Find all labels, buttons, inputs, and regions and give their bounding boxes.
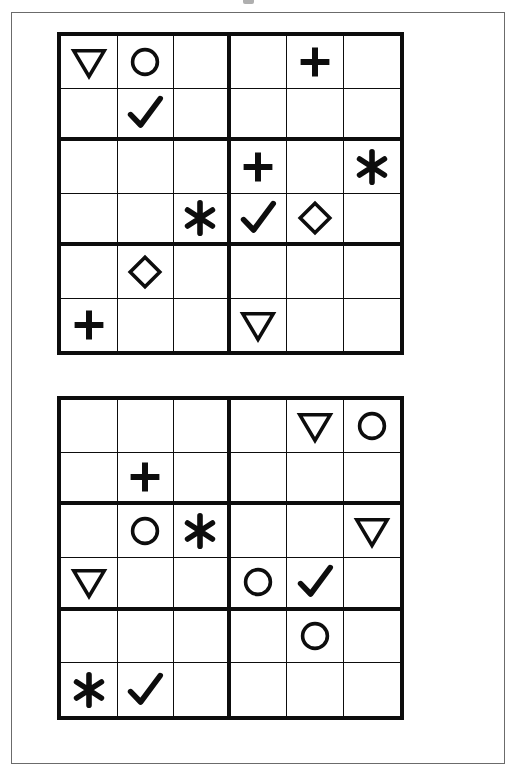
grid-cell[interactable]	[287, 505, 344, 558]
grid-cell[interactable]	[287, 89, 344, 142]
grid-cell[interactable]	[174, 194, 231, 247]
grid-cell[interactable]	[174, 558, 231, 611]
grid-cell[interactable]	[61, 400, 118, 453]
plus-icon	[61, 299, 117, 352]
grid-cell[interactable]	[61, 36, 118, 89]
grid-cell[interactable]	[231, 89, 288, 142]
triangle-down-icon	[344, 505, 401, 557]
grid-cell[interactable]	[344, 141, 401, 194]
grid-cell[interactable]	[287, 400, 344, 453]
grid-cell[interactable]	[174, 89, 231, 142]
grid-cell[interactable]	[231, 141, 288, 194]
grid-cell[interactable]	[344, 663, 401, 716]
puzzle-grid-2[interactable]	[57, 396, 404, 720]
grid-cell[interactable]	[231, 505, 288, 558]
empty-cell-marker	[231, 611, 287, 663]
grid-cell[interactable]	[118, 611, 175, 664]
grid-cell[interactable]	[174, 611, 231, 664]
empty-cell-marker	[61, 400, 117, 452]
empty-cell-marker	[174, 89, 227, 138]
grid-cell[interactable]	[231, 36, 288, 89]
grid-cell[interactable]	[287, 453, 344, 506]
grid-cell[interactable]	[118, 453, 175, 506]
empty-cell-marker	[287, 453, 343, 502]
empty-cell-marker	[174, 246, 227, 298]
grid-cell[interactable]	[287, 141, 344, 194]
grid-cell[interactable]	[231, 453, 288, 506]
empty-cell-marker	[287, 505, 343, 557]
empty-cell-marker	[344, 453, 401, 502]
grid-cell[interactable]	[344, 505, 401, 558]
grid-cell[interactable]	[118, 141, 175, 194]
grid-cell[interactable]	[61, 663, 118, 716]
grid-cell[interactable]	[344, 558, 401, 611]
grid-cell[interactable]	[344, 36, 401, 89]
grid-cell[interactable]	[231, 663, 288, 716]
page-top-artifact	[243, 0, 254, 4]
empty-cell-marker	[61, 246, 117, 298]
grid-cell[interactable]	[118, 89, 175, 142]
grid-cell[interactable]	[231, 611, 288, 664]
grid-cell[interactable]	[344, 194, 401, 247]
grid-cell[interactable]	[61, 558, 118, 611]
grid-cell[interactable]	[231, 558, 288, 611]
grid-cell[interactable]	[287, 663, 344, 716]
grid-cell[interactable]	[118, 558, 175, 611]
grid-cell[interactable]	[61, 141, 118, 194]
grid-cell[interactable]	[61, 505, 118, 558]
grid-cell[interactable]	[344, 400, 401, 453]
plus-icon	[231, 141, 287, 193]
grid-cell[interactable]	[287, 246, 344, 299]
grid-cell[interactable]	[231, 194, 288, 247]
empty-cell-marker	[231, 246, 287, 298]
grid-cell[interactable]	[344, 611, 401, 664]
grid-cell[interactable]	[118, 505, 175, 558]
grid-cell[interactable]	[231, 246, 288, 299]
grid-cell[interactable]	[344, 299, 401, 352]
grid-cell[interactable]	[174, 141, 231, 194]
grid-cell[interactable]	[118, 194, 175, 247]
empty-cell-marker	[344, 246, 401, 298]
grid-cell[interactable]	[344, 89, 401, 142]
grid-cell[interactable]	[118, 246, 175, 299]
empty-cell-marker	[61, 611, 117, 663]
grid-cell[interactable]	[174, 453, 231, 506]
grid-cell[interactable]	[287, 611, 344, 664]
grid-cell[interactable]	[61, 299, 118, 352]
grid-cell[interactable]	[287, 194, 344, 247]
empty-cell-marker	[231, 505, 287, 557]
puzzle-grid-1[interactable]	[57, 32, 404, 355]
circle-icon	[231, 558, 287, 607]
grid-cell[interactable]	[344, 246, 401, 299]
grid-cell[interactable]	[174, 246, 231, 299]
grid-cell[interactable]	[174, 36, 231, 89]
empty-cell-marker	[61, 141, 117, 193]
grid-cell[interactable]	[174, 505, 231, 558]
grid-cell[interactable]	[61, 194, 118, 247]
empty-cell-marker	[118, 141, 174, 193]
grid-cell[interactable]	[118, 663, 175, 716]
grid-cell[interactable]	[61, 611, 118, 664]
grid-cell[interactable]	[118, 36, 175, 89]
grid-cell[interactable]	[118, 299, 175, 352]
circle-icon	[118, 505, 174, 557]
grid-cell[interactable]	[118, 400, 175, 453]
grid-cell[interactable]	[344, 453, 401, 506]
grid-cell[interactable]	[61, 246, 118, 299]
grid-cell[interactable]	[61, 453, 118, 506]
empty-cell-marker	[174, 558, 227, 607]
check-icon	[231, 194, 287, 243]
grid-cell[interactable]	[174, 663, 231, 716]
grid-cell[interactable]	[287, 299, 344, 352]
circle-icon	[344, 400, 401, 452]
triangle-down-icon	[61, 558, 117, 607]
grid-cell[interactable]	[231, 299, 288, 352]
grid-cell[interactable]	[287, 36, 344, 89]
empty-cell-marker	[231, 400, 287, 452]
grid-cell[interactable]	[231, 400, 288, 453]
grid-cell[interactable]	[174, 299, 231, 352]
empty-cell-marker	[231, 89, 287, 138]
grid-cell[interactable]	[174, 400, 231, 453]
grid-cell[interactable]	[287, 558, 344, 611]
grid-cell[interactable]	[61, 89, 118, 142]
